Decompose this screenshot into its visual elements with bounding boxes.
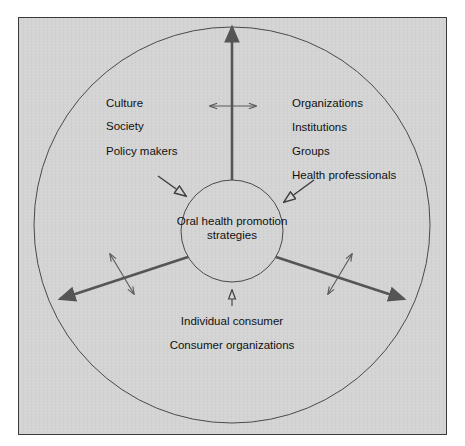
label-health-professionals: Health professionals [292,169,396,181]
label-culture: Culture [106,97,143,109]
label-individual-consumer: Individual consumer [181,315,283,327]
figure-root: Oral health promotion strategies Culture… [0,0,465,446]
label-consumer-organizations: Consumer organizations [170,339,295,351]
label-institutions: Institutions [292,121,347,133]
diagram-canvas: Oral health promotion strategies Culture… [0,0,465,446]
label-policy-makers: Policy makers [106,145,178,157]
center-label-line2: strategies [207,229,257,241]
cross-arrow-lower-left [110,254,134,294]
label-organizations: Organizations [292,97,363,109]
divider-lower-right [276,257,404,299]
inward-arrow-upper-right [284,180,314,202]
label-society: Society [106,120,144,132]
center-label-line1: Oral health promotion [177,215,288,227]
label-groups: Groups [292,145,330,157]
inward-arrow-upper-left [158,176,186,196]
